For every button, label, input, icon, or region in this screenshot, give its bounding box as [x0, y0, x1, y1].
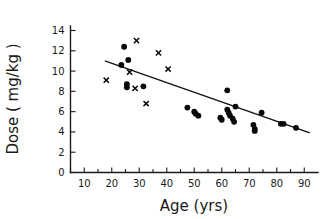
y-tick-label: 2 [58, 147, 64, 158]
y-tick-label: 10 [52, 66, 65, 77]
data-point-circle [219, 117, 225, 123]
data-point-circle [224, 87, 230, 93]
data-point-circle [231, 119, 237, 125]
data-point-cross [156, 50, 161, 55]
data-point-circle [293, 125, 299, 131]
data-point-cross [104, 78, 109, 83]
y-tick-label: 6 [58, 106, 64, 117]
y-axis: 02468101214 [52, 25, 76, 178]
y-axis-tick-labels: 02468101214 [52, 25, 65, 178]
data-point-circle [121, 44, 127, 50]
x-axis-tick-labels: 102030405060708090 [78, 178, 311, 189]
scatter-plot-figure: 02468101214 102030405060708090 Age (yrs)… [0, 0, 332, 219]
data-point-cross [133, 86, 138, 91]
data-point-circle [252, 128, 258, 134]
x-axis-title: Age (yrs) [160, 197, 228, 215]
x-tick-label: 10 [78, 178, 91, 189]
y-tick-label: 8 [58, 86, 64, 97]
data-point-circle [281, 121, 287, 127]
y-tick-label: 4 [58, 126, 64, 137]
x-tick-label: 80 [270, 178, 283, 189]
x-axis-ticks [71, 168, 305, 173]
plot-canvas: 02468101214 102030405060708090 Age (yrs)… [0, 0, 332, 219]
x-tick-label: 70 [243, 178, 256, 189]
data-point-circle [140, 83, 146, 89]
x-axis: 102030405060708090 [71, 168, 319, 189]
data-point-circle [118, 62, 124, 68]
x-tick-label: 20 [105, 178, 118, 189]
y-axis-title: Dose ( mg/kg ) [4, 43, 22, 154]
data-point-circle [124, 84, 130, 90]
data-point-circle [233, 104, 239, 110]
y-tick-label: 0 [58, 167, 64, 178]
x-tick-label: 50 [188, 178, 201, 189]
x-tick-label: 90 [298, 178, 311, 189]
data-point-cross [144, 101, 149, 106]
data-point-circle [125, 57, 131, 63]
y-tick-label: 14 [52, 25, 65, 36]
data-point-circle [195, 113, 201, 119]
data-point-cross [134, 38, 139, 43]
data-points-circles [118, 44, 298, 134]
x-tick-label: 40 [160, 178, 173, 189]
y-axis-ticks [71, 31, 76, 173]
x-tick-label: 60 [215, 178, 228, 189]
y-tick-label: 12 [52, 45, 65, 56]
data-point-circle [184, 105, 190, 111]
x-tick-label: 30 [133, 178, 146, 189]
data-point-cross [166, 66, 171, 71]
data-point-circle [259, 110, 265, 116]
